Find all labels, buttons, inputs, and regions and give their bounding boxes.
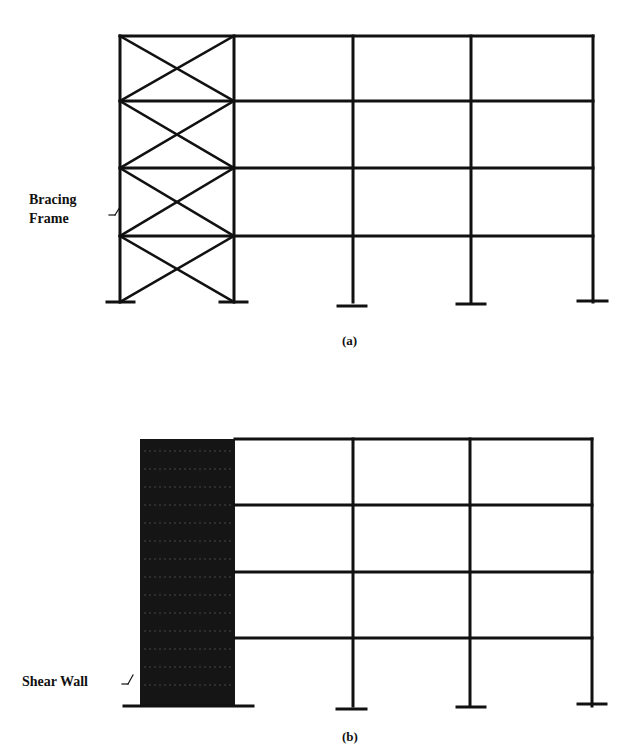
shear-wall-frame-diagram: [122, 439, 606, 709]
bracing-frame-diagram: [107, 36, 607, 306]
bracing-frame-label-line2: Frame: [29, 209, 76, 228]
shear-wall-label: Shear Wall: [22, 674, 88, 690]
leader-line: [128, 675, 133, 684]
structural-diagram: [0, 0, 629, 754]
caption-b: (b): [342, 729, 358, 745]
bracing-frame-label: Bracing Frame: [29, 190, 76, 228]
bracing-frame-label-line1: Bracing: [29, 190, 76, 209]
caption-a: (a): [342, 333, 357, 349]
shear-wall: [140, 439, 235, 706]
